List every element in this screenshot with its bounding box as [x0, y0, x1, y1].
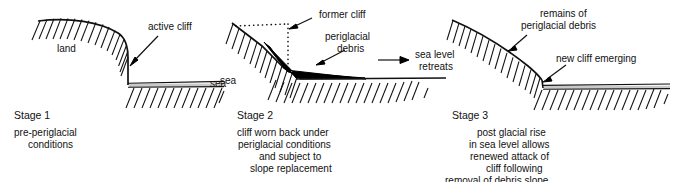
seabed-hachures-3 [534, 89, 668, 110]
new-cliff-face-3 [542, 80, 543, 88]
caption-3-line-3: renewed attack of [470, 151, 549, 162]
label-sea-level-line1: sea level [415, 49, 454, 60]
platform-line-2 [296, 78, 446, 79]
remains-debris-leader-3 [508, 35, 527, 51]
slope-hachures-2 [226, 24, 297, 98]
stage-label-2: Stage 2 [237, 109, 273, 121]
sea-level-retreats-arrow-2 [378, 57, 409, 64]
label-land: land [57, 43, 76, 54]
land-hachures-1 [32, 18, 128, 76]
cliff-evolution-diagram: land active cliff sea Stage 1 pre-perigl… [0, 0, 680, 182]
caption-3-line-4: cliff following [486, 163, 543, 174]
diagram-root: land active cliff sea Stage 1 pre-perigl… [0, 0, 680, 182]
caption-2-line-4: slope replacement [250, 163, 332, 174]
caption-3-line-1: post glacial rise [477, 127, 546, 138]
caption-1-line-1: pre-periglacial [14, 127, 77, 138]
caption-3-line-2: in sea level allows [469, 139, 550, 150]
active-cliff-leader-1 [130, 36, 158, 66]
caption-1-line-2: conditions [28, 139, 73, 150]
label-periglacial-debris-line2: debris [337, 43, 364, 54]
label-new-cliff-emerging: new cliff emerging [556, 53, 636, 64]
stage-label-1: Stage 1 [14, 109, 50, 121]
label-sea-level-line2: retreats [419, 61, 453, 72]
panel-stage-3: remains of periglacial debris new cliff … [445, 8, 670, 182]
seabed-line-3 [543, 89, 670, 90]
label-former-cliff: former cliff [319, 9, 366, 20]
label-periglacial-debris-line1: periglacial [325, 31, 370, 42]
panel-stage-2: former cliff periglacial debris sea leve… [220, 9, 454, 174]
seabed-hachures-1 [126, 88, 224, 108]
stage-label-3: Stage 3 [452, 109, 488, 121]
slope-hachures-3 [447, 21, 540, 99]
label-sea-2: sea [220, 75, 237, 86]
label-active-cliff: active cliff [148, 21, 192, 32]
caption-2-line-3: and subject to [259, 151, 322, 162]
former-cliff-leader-2 [289, 18, 312, 29]
caption-2-line-2: periglacial conditions [238, 139, 331, 150]
sea-surface-line-3 [543, 84, 670, 85]
caption-3-line-5: removal of debris slope [445, 175, 549, 182]
panel-stage-1: land active cliff sea Stage 1 pre-perigl… [14, 18, 227, 150]
new-cliff-leader-3 [543, 65, 566, 82]
label-remains-line1: remains of [540, 8, 587, 19]
caption-2-line-1: cliff worn back under [237, 127, 329, 138]
label-remains-line2: periglacial debris [521, 20, 596, 31]
